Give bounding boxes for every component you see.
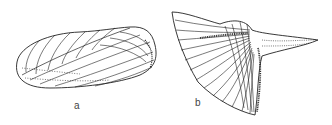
shell-illustration xyxy=(0,0,332,125)
shell-b-drawing xyxy=(172,12,318,115)
panel-label-a: a xyxy=(74,100,80,111)
panel-label-b: b xyxy=(195,97,201,108)
shell-a-drawing xyxy=(17,27,157,88)
